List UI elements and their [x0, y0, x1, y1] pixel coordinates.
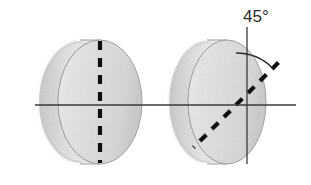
angle-label: 45°: [243, 7, 269, 26]
figure-canvas: 45°: [0, 0, 311, 185]
left-disk: [38, 40, 142, 164]
right-disk: [168, 40, 278, 164]
right-disk-face: [188, 40, 266, 164]
optic-axis-diagram: 45°: [0, 0, 311, 185]
